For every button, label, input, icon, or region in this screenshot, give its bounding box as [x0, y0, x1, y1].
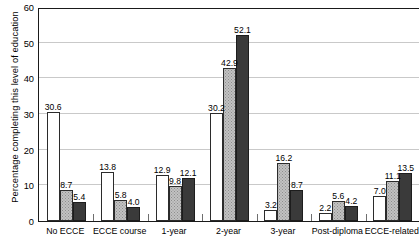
- bar-value-label: 5.6: [332, 192, 344, 201]
- plot-area: 30.68.75.413.85.84.012.99.812.130.242.95…: [38, 8, 419, 222]
- x-axis-tick-label: 1-year: [147, 226, 201, 237]
- bar-value-label: 12.1: [180, 169, 197, 178]
- bar[interactable]: 5.4: [73, 202, 86, 221]
- y-axis-tick-label: 50: [10, 39, 34, 49]
- bar-value-label: 16.2: [276, 154, 293, 163]
- y-axis-tick-label: 30: [10, 110, 34, 120]
- bar-value-label: 13.8: [99, 163, 116, 172]
- bar-value-label: 4.2: [345, 197, 357, 206]
- bar[interactable]: 5.8: [114, 200, 127, 221]
- bar-value-label: 42.9: [221, 59, 238, 68]
- bar[interactable]: 13.5: [399, 173, 412, 221]
- bar[interactable]: 16.2: [277, 163, 290, 221]
- bar[interactable]: 42.9: [223, 68, 236, 221]
- x-axis-tick-label: 3-year: [256, 226, 310, 237]
- bar[interactable]: 13.8: [101, 172, 114, 221]
- bar[interactable]: 8.7: [290, 190, 303, 221]
- bar-group: 30.242.952.1: [202, 9, 256, 221]
- x-axis-tick-label: 2-year: [201, 226, 255, 237]
- bar[interactable]: 9.8: [169, 186, 182, 221]
- bar-value-label: 12.9: [154, 166, 171, 175]
- bar[interactable]: 4.0: [127, 207, 140, 221]
- bar-groups: 30.68.75.413.85.84.012.99.812.130.242.95…: [39, 9, 419, 221]
- bar[interactable]: 5.6: [332, 201, 345, 221]
- bar[interactable]: 12.9: [156, 175, 169, 221]
- bar-value-label: 3.2: [265, 201, 277, 210]
- bar[interactable]: 30.6: [47, 112, 60, 221]
- y-axis-tick-label: 40: [10, 74, 34, 84]
- bar-value-label: 11.1: [385, 172, 401, 181]
- bar-value-label: 30.2: [208, 104, 225, 113]
- bar-group: 13.85.84.0: [93, 9, 147, 221]
- bar[interactable]: 11.1: [386, 181, 399, 221]
- bar-group: 30.68.75.4: [39, 9, 93, 221]
- y-axis-tick-label: 20: [10, 146, 34, 156]
- bar[interactable]: 7.0: [373, 196, 386, 221]
- bar-value-label: 4.0: [128, 198, 140, 207]
- bar[interactable]: 30.2: [210, 113, 223, 221]
- bar[interactable]: 8.7: [60, 190, 73, 221]
- bar-value-label: 9.8: [169, 177, 181, 186]
- bar-value-label: 5.4: [73, 193, 85, 202]
- x-axis-tick-label: ECCE course: [92, 226, 146, 237]
- bar[interactable]: 3.2: [264, 210, 277, 221]
- bar-group: 12.99.812.1: [148, 9, 202, 221]
- bar-group: 7.011.113.5: [366, 9, 419, 221]
- bar[interactable]: 2.2: [319, 213, 332, 221]
- bar-value-label: 8.7: [60, 181, 72, 190]
- bar-group: 3.216.28.7: [257, 9, 311, 221]
- y-axis-tick-label: 10: [10, 181, 34, 191]
- x-axis-tick-labels: No ECCEECCE course1-year2-year3-yearPost…: [0, 226, 419, 246]
- bar[interactable]: 12.1: [182, 178, 195, 221]
- bar[interactable]: 4.2: [345, 206, 358, 221]
- bar-chart: Percentage completing this level of educ…: [0, 0, 419, 248]
- x-axis-tick-label: No ECCE: [38, 226, 92, 237]
- x-axis-tick-label: ECCE-related: [365, 226, 419, 237]
- bar-value-label: 52.1: [234, 26, 251, 35]
- y-axis-tick-label: 60: [10, 3, 34, 13]
- bar-value-label: 5.8: [115, 191, 127, 200]
- bar-value-label: 7.0: [374, 187, 386, 196]
- bar-group: 2.25.64.2: [311, 9, 365, 221]
- bar-value-label: 8.7: [291, 181, 303, 190]
- bar-value-label: 2.2: [319, 204, 331, 213]
- bar-value-label: 30.6: [45, 103, 62, 112]
- x-axis-tick-label: Post-diploma: [310, 226, 364, 237]
